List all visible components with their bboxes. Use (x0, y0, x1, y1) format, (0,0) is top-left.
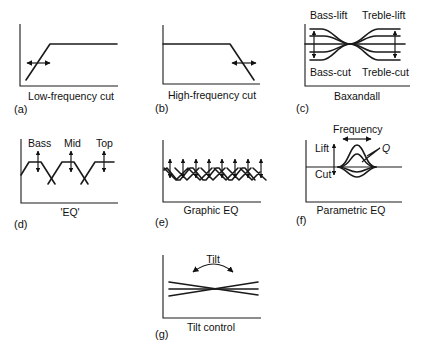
caption: Parametric EQ (317, 204, 386, 216)
panel-tag: (c) (296, 102, 309, 114)
bass-lift-label: Bass-lift (310, 9, 347, 21)
mid-label: Mid (64, 137, 81, 149)
axes (163, 25, 260, 84)
panel-graphic-eq: Graphic EQ (e) (155, 140, 266, 228)
caption: Tilt control (187, 321, 235, 333)
response-curve (26, 44, 117, 80)
panel-tag: (d) (14, 218, 27, 230)
panel-parametric-eq: Frequency Lift Cut Q Parametric EQ (f) (296, 123, 402, 226)
caption: Graphic EQ (184, 204, 239, 216)
q-label: Q (382, 142, 390, 154)
frequency-label: Frequency (333, 123, 383, 135)
panel-tag: (a) (14, 103, 27, 115)
lift-label: Lift (315, 142, 329, 154)
panel-high-frequency-cut: High-frequency cut (b) (155, 25, 260, 114)
treble-lift-label: Treble-lift (362, 9, 405, 21)
panel-low-frequency-cut: Low-frequency cut (a) (14, 24, 118, 115)
panel-tag: (b) (155, 102, 168, 114)
panel-tag: (g) (155, 328, 168, 340)
bass-label: Bass (28, 137, 51, 149)
panel-tilt-control: Tilt Tilt control (g) (155, 253, 261, 340)
caption: High-frequency cut (168, 89, 256, 101)
tone-control-diagram: Low-frequency cut (a) High-frequency cut… (0, 0, 422, 350)
bass-cut-label: Bass-cut (310, 66, 351, 78)
panel-eq: Bass Mid Top 'EQ' (d) (14, 137, 118, 230)
treble-cut-label: Treble-cut (362, 66, 409, 78)
caption: Low-frequency cut (28, 90, 114, 102)
caption: 'EQ' (60, 206, 79, 218)
panel-tag: (f) (296, 214, 306, 226)
panel-tag: (e) (155, 216, 168, 228)
tilt-label: Tilt (206, 253, 220, 265)
axes (20, 24, 118, 86)
tilt-arrow-icon (193, 264, 233, 272)
top-label: Top (96, 137, 113, 149)
response-curves (305, 29, 405, 60)
response-curve (163, 44, 254, 80)
caption: Baxandall (334, 90, 380, 102)
panel-baxandall: Bass-lift Treble-lift Bass-cut Treble-cu… (296, 9, 410, 114)
mid-band (48, 162, 88, 184)
cut-label: Cut (315, 168, 331, 180)
